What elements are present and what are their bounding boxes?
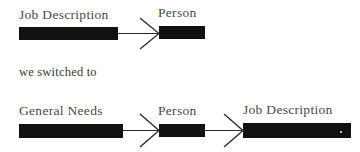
arrow-job-description-to-person-row1 — [118, 18, 159, 49]
node-bar-person-row2 — [159, 124, 205, 137]
bar-speck — [340, 131, 342, 133]
node-label-person-row2: Person — [158, 104, 197, 118]
node-label-job-description-row2: Job Description — [243, 103, 333, 117]
node-label-job-description-row1: Job Description — [19, 8, 109, 22]
node-bar-job-description-row2 — [243, 123, 351, 138]
node-label-general-needs-row2: General Needs — [19, 104, 103, 118]
node-bar-general-needs-row2 — [19, 124, 123, 138]
node-label-person-row1: Person — [158, 6, 197, 20]
node-bar-job-description-row1 — [19, 27, 118, 40]
node-bar-person-row1 — [159, 26, 205, 39]
caption-we-switched-to: we switched to — [19, 65, 97, 79]
diagram-canvas: Job Description Person we switched to Ge… — [0, 0, 360, 152]
arrow-person-to-job-description-row2 — [205, 114, 243, 147]
arrow-general-needs-to-person-row2 — [123, 114, 159, 147]
